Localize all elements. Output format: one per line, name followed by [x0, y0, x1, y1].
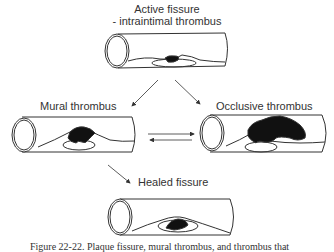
- vessel-mural-thrombus: [12, 117, 135, 152]
- vessel-active-fissure: [105, 33, 228, 68]
- vessel-healed-fissure: [108, 199, 234, 235]
- figure-caption: Figure 22-22. Plaque fissure, mural thro…: [30, 241, 289, 252]
- vessel-occlusive-thrombus: [200, 115, 326, 152]
